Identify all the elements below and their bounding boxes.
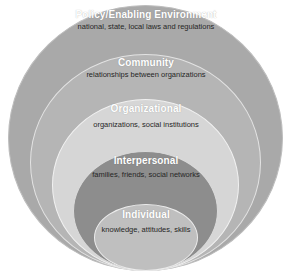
socio-ecological-model-diagram: Policy/Enabling Environment national, st… — [0, 0, 292, 278]
circle-individual — [94, 204, 198, 271]
